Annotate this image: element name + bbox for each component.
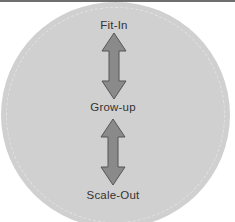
node-label-fit-in: Fit-In — [100, 19, 127, 31]
node-label-scale-out: Scale-Out — [87, 189, 140, 201]
node-label-grow-up: Grow-up — [90, 101, 136, 113]
double-arrow-icon-upper — [100, 32, 128, 100]
double-arrow-icon-lower — [99, 118, 127, 186]
